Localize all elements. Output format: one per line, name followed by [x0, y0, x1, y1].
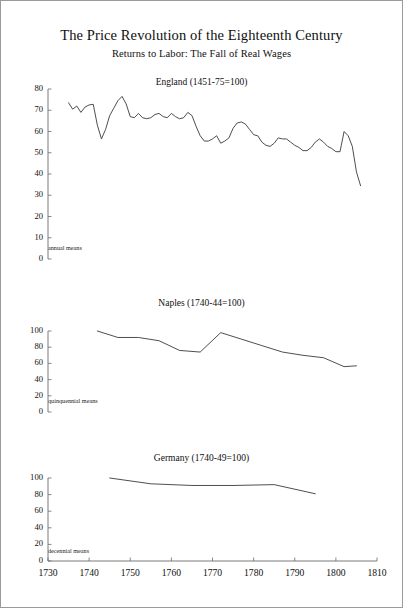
x-tick-label: 1810: [359, 567, 395, 578]
england-y-tick-label: 10: [21, 232, 43, 242]
england-y-tick-label: 70: [21, 104, 43, 114]
naples-y-tick-label: 40: [21, 374, 43, 384]
germany-axis-note: decennial means: [48, 547, 89, 554]
figure-canvas: The Price Revolution of the Eighteenth C…: [0, 0, 403, 608]
page-title: The Price Revolution of the Eighteenth C…: [1, 27, 402, 44]
germany-y-tick-label: 80: [21, 489, 43, 499]
england-y-tick-label: 80: [21, 83, 43, 93]
naples-y-tick-label: 20: [21, 390, 43, 400]
england-panel-title: England (1451-75=100): [1, 77, 402, 87]
page-subtitle: Returns to Labor: The Fall of Real Wages: [1, 48, 402, 59]
x-tick-label: 1730: [30, 567, 66, 578]
germany-panel-title: Germany (1740-49=100): [1, 453, 402, 463]
england-y-tick-label: 50: [21, 147, 43, 157]
naples-y-tick-label: 60: [21, 357, 43, 367]
england-y-tick-label: 40: [21, 168, 43, 178]
naples-y-tick-label: 80: [21, 341, 43, 351]
germany-y-tick-label: 20: [21, 538, 43, 548]
naples-panel-title: Naples (1740-44=100): [1, 298, 402, 308]
germany-y-tick-label: 100: [21, 472, 43, 482]
x-tick-label: 1790: [277, 567, 313, 578]
x-tick-label: 1770: [195, 567, 231, 578]
naples-y-tick-label: 0: [21, 406, 43, 416]
england-axis-note: annual means: [48, 244, 82, 251]
x-tick-label: 1760: [153, 567, 189, 578]
england-series-line: [69, 96, 361, 185]
england-y-tick-label: 0: [21, 253, 43, 263]
germany-y-tick-label: 0: [21, 555, 43, 565]
naples-series-line: [97, 331, 356, 367]
germany-y-tick-label: 40: [21, 522, 43, 532]
england-y-tick-label: 30: [21, 189, 43, 199]
germany-series-line: [110, 478, 316, 494]
england-y-tick-label: 20: [21, 211, 43, 221]
x-tick-label: 1750: [112, 567, 148, 578]
x-tick-label: 1740: [71, 567, 107, 578]
x-tick-label: 1780: [236, 567, 272, 578]
naples-y-tick-label: 100: [21, 325, 43, 335]
germany-y-tick-label: 60: [21, 505, 43, 515]
x-tick-label: 1800: [318, 567, 354, 578]
naples-axis-note: quinquennial means: [48, 397, 98, 404]
england-y-tick-label: 60: [21, 126, 43, 136]
